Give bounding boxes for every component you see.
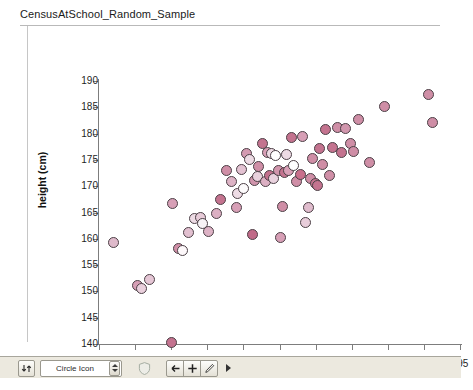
data-point[interactable] [423,89,434,100]
y-tick-label-wrap: 185 [58,102,98,112]
add-button[interactable] [183,360,201,377]
y-tick-label: 150 [72,286,98,296]
data-point[interactable] [300,217,311,228]
y-tick-label: 175 [72,155,98,165]
data-point[interactable] [275,232,286,243]
y-tick-label: 180 [72,129,98,139]
data-point[interactable] [277,201,288,212]
data-point[interactable] [270,150,281,161]
y-tick-label: 190 [72,76,98,86]
title-bar: CensusAtSchool_Random_Sample [0,0,461,26]
data-point[interactable] [247,229,258,240]
y-tick-label-wrap: 180 [58,129,98,139]
y-tick-label-wrap: 170 [58,181,98,191]
y-tick-label-wrap: 165 [58,208,98,218]
y-tick-label: 185 [72,102,98,112]
swap-arrows-icon[interactable] [18,360,35,377]
data-point[interactable] [167,198,178,209]
y-tick-label-wrap: 150 [58,286,98,296]
toolbar-overflow-arrow-icon[interactable] [226,364,231,372]
icon-style-select[interactable]: Circle Icon [40,360,122,377]
chart-panel[interactable]: 140145150155160165170175180185190 145150… [27,26,447,342]
y-tick-label-wrap: 160 [58,234,98,244]
y-tick-label-wrap: 140 [58,339,98,349]
data-point[interactable] [108,237,119,248]
window-bottom-strip [0,378,461,390]
x-tick-mark [424,345,425,350]
data-point[interactable] [231,202,242,213]
data-point[interactable] [136,283,147,294]
x-tick-mark [99,345,100,350]
x-tick-mark [243,345,244,350]
pencil-edit-button[interactable] [200,360,218,377]
data-point[interactable] [427,117,438,128]
chevron-up-icon [112,364,118,367]
x-tick-mark [352,345,353,350]
y-tick-label: 170 [72,181,98,191]
data-point[interactable] [317,159,328,170]
data-point[interactable] [379,101,390,112]
data-point[interactable] [324,170,335,181]
y-tick-label: 165 [72,208,98,218]
y-tick-label: 140 [72,339,98,349]
data-point[interactable] [286,132,297,143]
y-tick-label-wrap: 145 [58,313,98,323]
data-point[interactable] [183,227,194,238]
y-tick-label-wrap: 175 [58,155,98,165]
plot-area[interactable] [99,81,460,344]
bottom-toolbar: Circle Icon [0,356,461,380]
icon-style-select-value: Circle Icon [41,364,109,373]
y-tick-label: 160 [72,234,98,244]
icon-style-stepper[interactable] [109,361,120,376]
x-tick-mark [388,345,389,350]
data-point[interactable] [211,208,222,219]
data-point[interactable] [312,180,323,191]
y-tick-label: 155 [72,260,98,270]
x-tick-mark [460,345,461,350]
y-tick-label-wrap: 190 [58,76,98,86]
page-title: CensusAtSchool_Random_Sample [20,8,195,20]
back-arrow-button[interactable] [166,360,184,377]
data-point[interactable] [166,337,177,348]
y-tick-label-wrap: 155 [58,260,98,270]
x-tick-mark [280,345,281,350]
data-point[interactable] [303,202,314,213]
y-tick-label: 145 [72,313,98,323]
chevron-down-icon [112,369,118,372]
shield-icon[interactable] [133,360,155,377]
data-point[interactable] [238,183,249,194]
x-tick-mark [135,345,136,350]
y-axis-label: height (cm) [36,120,48,240]
plot-tool-button-group [166,360,218,377]
x-tick-mark [316,345,317,350]
x-tick-mark [207,345,208,350]
